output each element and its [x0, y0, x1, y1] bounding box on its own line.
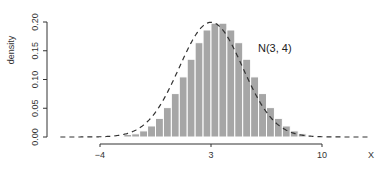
histogram-bar — [219, 23, 227, 137]
histogram-bar — [132, 134, 140, 137]
histogram-bars — [124, 23, 306, 137]
histogram-bar — [124, 135, 132, 137]
density-histogram-chart: 0.000.050.100.150.20 density −4310 X N(3… — [0, 0, 392, 171]
y-tick-label: 0.10 — [30, 71, 40, 89]
x-axis-title: X — [368, 150, 374, 160]
histogram-bar — [171, 94, 179, 137]
distribution-annotation: N(3, 4) — [258, 42, 292, 54]
histogram-bar — [259, 94, 267, 137]
y-axis-title: density — [6, 35, 16, 64]
y-tick-label: 0.00 — [30, 128, 40, 146]
histogram-bar — [195, 43, 203, 137]
histogram-bar — [203, 30, 211, 137]
histogram-bar — [227, 30, 235, 137]
histogram-bar — [235, 43, 243, 137]
x-tick-label: 3 — [208, 150, 213, 160]
histogram-bar — [156, 118, 164, 137]
y-tick-label: 0.15 — [30, 42, 40, 60]
x-tick-label: −4 — [95, 150, 105, 160]
histogram-bar — [274, 118, 282, 137]
histogram-bar — [148, 126, 156, 137]
histogram-bar — [187, 59, 195, 137]
histogram-bar — [179, 77, 187, 137]
x-axis-ticks: −4310 — [95, 144, 327, 160]
histogram-bar — [211, 23, 219, 137]
y-tick-label: 0.20 — [30, 13, 40, 31]
histogram-bar — [163, 108, 171, 137]
histogram-bar — [282, 126, 290, 137]
histogram-bar — [140, 131, 148, 137]
x-tick-label: 10 — [317, 150, 327, 160]
y-axis-ticks: 0.000.050.100.150.20 — [30, 13, 47, 146]
y-tick-label: 0.05 — [30, 99, 40, 117]
histogram-bar — [267, 108, 275, 137]
